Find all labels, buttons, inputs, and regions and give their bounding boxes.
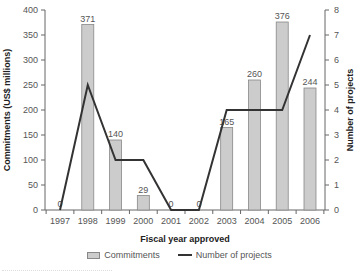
y-tick-label: 150 bbox=[23, 130, 38, 140]
x-tick-label: 2005 bbox=[272, 216, 292, 226]
y2-tick-label: 2 bbox=[334, 155, 339, 165]
bar-value-label: 260 bbox=[247, 69, 262, 79]
x-tick-label: 2002 bbox=[189, 216, 209, 226]
bar-value-label: 140 bbox=[108, 129, 123, 139]
x-tick-label: 2004 bbox=[244, 216, 264, 226]
y2-tick-label: 8 bbox=[334, 5, 339, 15]
legend-label-commitments: Commitments bbox=[104, 250, 160, 260]
y-tick-label: 250 bbox=[23, 80, 38, 90]
x-tick-label: 2001 bbox=[161, 216, 181, 226]
bar bbox=[221, 128, 233, 211]
y2-tick-label: 6 bbox=[334, 55, 339, 65]
legend-label-projects: Number of projects bbox=[196, 250, 272, 260]
y-tick-label: 300 bbox=[23, 55, 38, 65]
y2-tick-label: 5 bbox=[334, 80, 339, 90]
bar bbox=[82, 25, 94, 211]
y-tick-label: 50 bbox=[28, 180, 38, 190]
bar-value-label: 244 bbox=[302, 77, 317, 87]
x-tick-label: 1999 bbox=[106, 216, 126, 226]
bar bbox=[276, 22, 288, 210]
bar bbox=[248, 80, 260, 210]
y2-tick-label: 4 bbox=[334, 105, 339, 115]
y-tick-label: 200 bbox=[23, 105, 38, 115]
y-axis-title: Commitments (US$ millions) bbox=[2, 49, 12, 172]
y2-axis-title: Number of projects bbox=[345, 69, 355, 152]
x-tick-label: 2000 bbox=[133, 216, 153, 226]
x-tick-label: 1997 bbox=[50, 216, 70, 226]
bar-value-label: 376 bbox=[275, 11, 290, 21]
x-tick-label: 2003 bbox=[217, 216, 237, 226]
bar bbox=[137, 196, 149, 211]
legend-item-commitments: Commitments bbox=[87, 250, 160, 260]
line-swatch-icon bbox=[178, 254, 192, 256]
bar-value-label: 371 bbox=[80, 14, 95, 24]
y-tick-label: 100 bbox=[23, 155, 38, 165]
x-axis-title: Fiscal year approved bbox=[140, 234, 230, 244]
y-tick-label: 0 bbox=[33, 205, 38, 215]
y-tick-label: 350 bbox=[23, 30, 38, 40]
bar-value-label: 29 bbox=[138, 185, 148, 195]
bar-value-label: 165 bbox=[219, 117, 234, 127]
y2-tick-label: 7 bbox=[334, 30, 339, 40]
bar-swatch-icon bbox=[87, 252, 100, 259]
x-tick-label: 1998 bbox=[78, 216, 98, 226]
x-tick-label: 2006 bbox=[300, 216, 320, 226]
legend-item-projects: Number of projects bbox=[178, 250, 272, 260]
y2-tick-label: 0 bbox=[334, 205, 339, 215]
bar bbox=[304, 88, 316, 210]
projects-line bbox=[60, 35, 310, 210]
y2-tick-label: 3 bbox=[334, 130, 339, 140]
axes: 0501001502002503003504000123456781997199… bbox=[23, 5, 339, 226]
y2-tick-label: 1 bbox=[334, 180, 339, 190]
combo-chart: 0501001502002503003504000123456781997199… bbox=[0, 0, 359, 250]
legend: Commitments Number of projects bbox=[0, 250, 359, 260]
y-tick-label: 400 bbox=[23, 5, 38, 15]
projects-polyline bbox=[60, 35, 310, 210]
footer-divider bbox=[2, 270, 112, 274]
